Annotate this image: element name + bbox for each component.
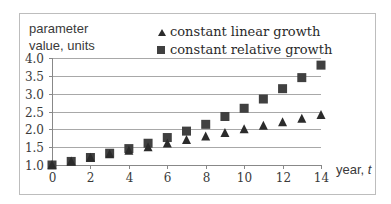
y-tick-label: 4.0 [25, 52, 44, 66]
x-tick-label: 6 [164, 171, 172, 185]
x-tick-labels: 02468101214 [49, 171, 330, 185]
legend-relative-label: constant relative growth [170, 42, 333, 57]
square-data-point [240, 104, 249, 113]
triangle-data-point [297, 114, 306, 123]
square-data-point [297, 73, 306, 82]
y-tick-label: 1.5 [25, 141, 44, 155]
legend: constant linear growth constant relative… [157, 24, 333, 57]
x-tick-label: 12 [276, 171, 291, 185]
triangle-data-point [182, 135, 191, 144]
square-data-point [259, 95, 268, 104]
x-tick-label: 10 [237, 171, 252, 185]
x-axis-label: year, t [336, 162, 373, 177]
triangle-data-point [278, 117, 287, 126]
scatter-chart: 1.01.52.02.53.03.54.0 02468101214 parame… [0, 0, 391, 204]
triangle-data-point [201, 131, 210, 140]
triangle-data-point [259, 121, 268, 130]
legend-linear-label: constant linear growth [170, 24, 321, 39]
y-tick-label: 2.5 [25, 106, 44, 120]
square-data-point [201, 120, 210, 129]
y-tick-labels: 1.01.52.02.53.03.54.0 [25, 52, 44, 173]
axes [49, 58, 322, 169]
triangle-data-point [240, 124, 249, 133]
square-marker-icon [157, 46, 165, 54]
square-data-point [317, 61, 326, 70]
triangle-data-point [317, 110, 326, 119]
series-constant-linear-growth [48, 110, 326, 169]
y-tick-label: 3.0 [25, 88, 44, 102]
x-tick-label: 8 [203, 171, 211, 185]
square-data-point [182, 127, 191, 136]
x-tick-label: 2 [87, 171, 95, 185]
square-data-point [220, 112, 229, 121]
y-tick-label: 3.5 [25, 70, 44, 84]
triangle-marker-icon [158, 29, 166, 36]
x-tick-label: 4 [126, 171, 134, 185]
x-tick-label: 14 [314, 171, 330, 185]
x-tick-label: 0 [49, 171, 57, 185]
square-data-point [278, 84, 287, 93]
y-axis-label-line1: parameter [29, 21, 89, 36]
y-tick-label: 2.0 [25, 123, 44, 137]
y-tick-label: 1.0 [25, 159, 44, 173]
y-axis-label-line2: value, units [29, 38, 95, 53]
